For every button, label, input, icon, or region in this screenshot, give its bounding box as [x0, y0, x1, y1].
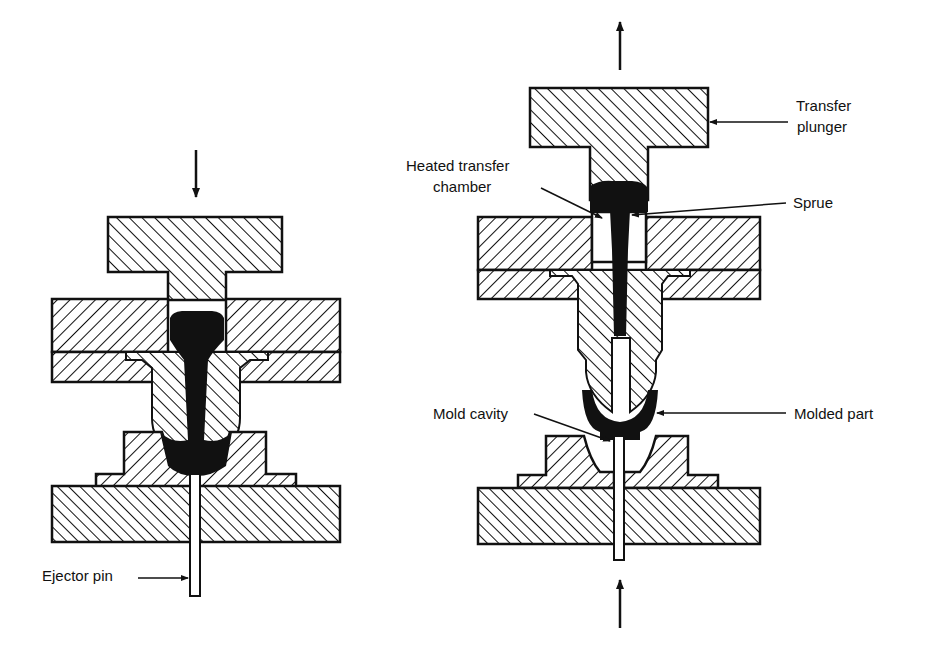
- label-ejector-pin: Ejector pin: [42, 567, 113, 584]
- compound-charge: [590, 181, 648, 212]
- chamber-plate-left: [478, 217, 592, 270]
- molded-part: [582, 390, 658, 440]
- label-molded-part: Molded part: [794, 405, 874, 422]
- ejector-pin: [190, 474, 200, 596]
- left-assembly: Ejector pin: [42, 150, 340, 596]
- upper-plate-right: [226, 299, 340, 352]
- right-ejector-pin: [614, 436, 624, 560]
- chamber-plate-right: [646, 217, 760, 270]
- label-transfer-plunger-1: Transfer: [796, 97, 851, 114]
- label-heated-chamber-2: chamber: [433, 178, 491, 195]
- transfer-molding-diagram: Ejector pin Transfer plun: [0, 0, 936, 667]
- plunger: [108, 217, 282, 300]
- right-assembly: Transfer plunger Heated transfer chamber…: [406, 22, 874, 628]
- upper-plate-left: [52, 299, 168, 352]
- label-transfer-plunger-2: plunger: [797, 118, 847, 135]
- label-sprue: Sprue: [793, 194, 833, 211]
- leader-sprue: [632, 203, 786, 215]
- label-mold-cavity: Mold cavity: [433, 405, 509, 422]
- label-heated-chamber-1: Heated transfer: [406, 157, 509, 174]
